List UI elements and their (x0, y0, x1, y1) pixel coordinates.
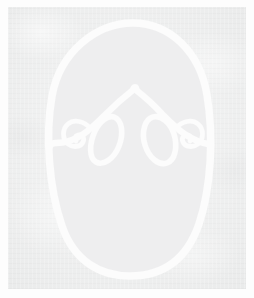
scanned-paper-sheet (8, 7, 246, 289)
artwork-canvas (0, 0, 254, 298)
paper-vignette (8, 7, 246, 289)
paper-fibre-texture (8, 7, 246, 289)
paper-grain-texture (8, 7, 246, 289)
